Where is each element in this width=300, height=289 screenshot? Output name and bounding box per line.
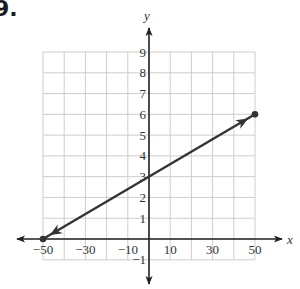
x-tick-label: 50 — [249, 242, 262, 257]
y-tick-label: 9 — [140, 45, 147, 60]
x-axis-label: x — [286, 232, 293, 247]
coordinate-plane: −50−30−10103050−1123456789 x y — [0, 0, 300, 289]
x-tick-label: −50 — [33, 242, 53, 257]
y-tick-label: 8 — [140, 65, 147, 80]
y-tick-label: 2 — [140, 190, 147, 205]
endpoint-dot — [252, 111, 259, 118]
x-tick-label: −30 — [75, 242, 95, 257]
y-tick-label: 7 — [140, 86, 147, 101]
endpoint-dot — [40, 236, 47, 243]
y-tick-label: 1 — [140, 211, 147, 226]
y-tick-label: 4 — [140, 148, 147, 163]
y-axis-label: y — [142, 8, 150, 23]
x-tick-label: 30 — [206, 242, 219, 257]
y-tick-label: 6 — [140, 107, 147, 122]
x-tick-label: 10 — [164, 242, 177, 257]
y-tick-label: 5 — [140, 128, 147, 143]
y-tick-label: −1 — [132, 252, 146, 267]
